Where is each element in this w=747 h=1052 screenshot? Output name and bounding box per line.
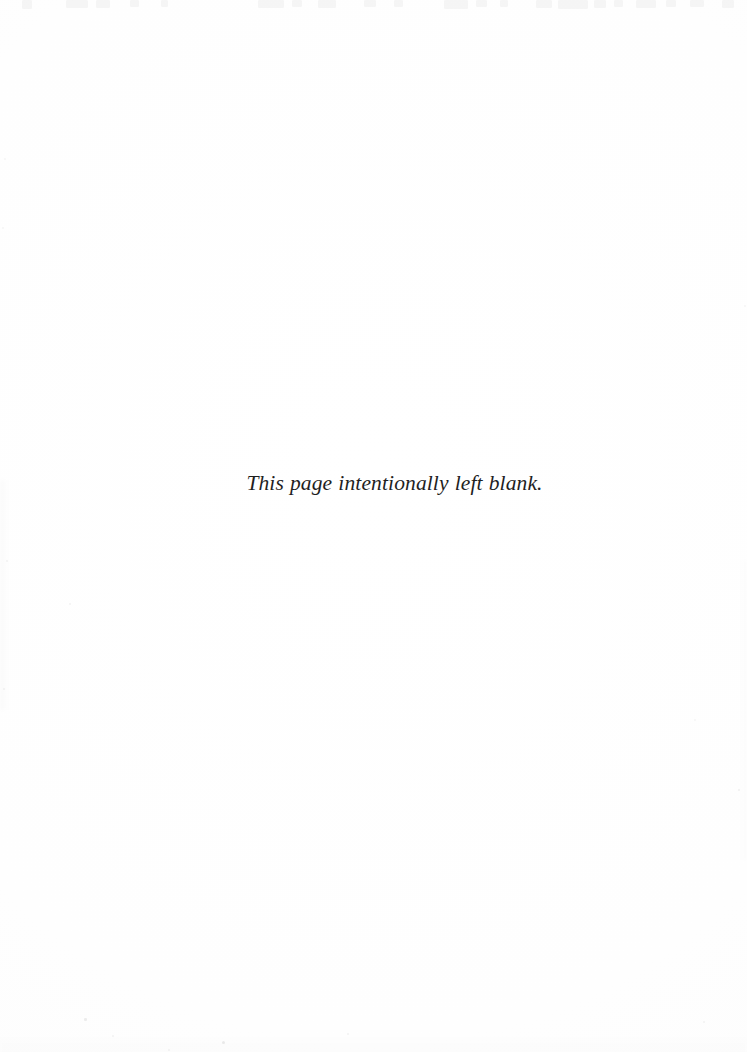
left-edge-scan-smudge xyxy=(0,480,9,710)
bleedthrough-mark xyxy=(594,0,606,8)
bleedthrough-mark xyxy=(161,0,168,7)
scan-speck xyxy=(222,1041,225,1044)
bottom-edge-scan-smudge xyxy=(0,1034,747,1052)
bleedthrough-mark xyxy=(536,0,552,8)
bleedthrough-mark xyxy=(614,0,623,7)
scan-speck xyxy=(84,1018,87,1021)
scan-speck xyxy=(744,305,746,307)
blank-page-notice: This page intentionally left blank. xyxy=(0,470,747,496)
scan-speck xyxy=(112,1035,114,1037)
bleedthrough-mark xyxy=(722,0,734,8)
scan-speck xyxy=(3,688,5,690)
bleedthrough-mark xyxy=(130,0,139,7)
scan-speck xyxy=(4,158,6,160)
bleedthrough-mark xyxy=(318,0,336,8)
scan-speck xyxy=(69,603,71,605)
blank-page-notice-text: This page intentionally left blank. xyxy=(246,470,542,496)
scan-speck xyxy=(347,1033,349,1035)
scan-speck xyxy=(6,560,8,562)
bleedthrough-mark xyxy=(444,0,468,9)
bleedthrough-mark xyxy=(22,0,32,9)
bleedthrough-mark xyxy=(66,0,88,8)
bleedthrough-mark xyxy=(258,0,284,8)
bleedthrough-mark xyxy=(96,0,110,8)
bleedthrough-mark xyxy=(500,0,508,7)
scan-speck xyxy=(738,789,740,791)
scan-speck xyxy=(703,1021,705,1023)
bleedthrough-mark xyxy=(690,0,704,7)
bleedthrough-mark xyxy=(558,0,588,9)
bleedthrough-mark xyxy=(666,0,676,7)
top-edge-bleedthrough-marks xyxy=(0,0,747,14)
right-edge-scan-smudge xyxy=(740,560,747,860)
bleedthrough-mark xyxy=(292,0,302,7)
scan-speck xyxy=(2,227,4,229)
scan-speck xyxy=(168,1049,170,1051)
scanned-page: This page intentionally left blank. xyxy=(0,0,747,1052)
bleedthrough-mark xyxy=(636,0,656,8)
paper-texture xyxy=(0,0,747,1052)
scan-speck xyxy=(694,719,696,721)
bleedthrough-mark xyxy=(394,0,403,7)
bleedthrough-mark xyxy=(364,0,376,7)
bleedthrough-mark xyxy=(476,0,487,7)
